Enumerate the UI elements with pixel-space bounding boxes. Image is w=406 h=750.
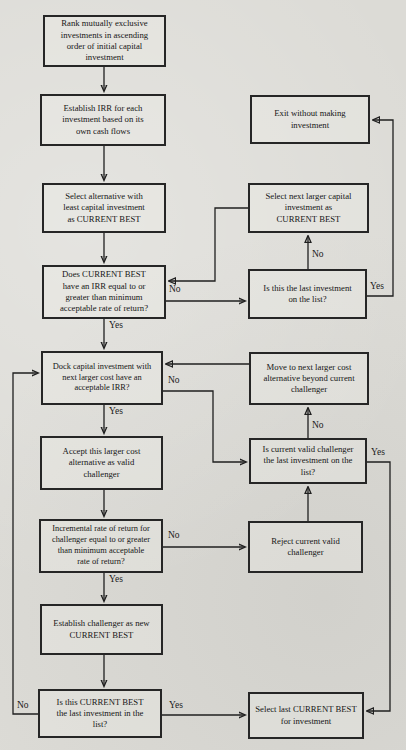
node-select-least-capital: Select alternative with least capital in… bbox=[42, 183, 166, 233]
label-iscblast-yes: Yes bbox=[169, 701, 183, 711]
label-does-no: No bbox=[169, 285, 181, 295]
node-establish-irr: Establish IRR for each investment based … bbox=[40, 94, 166, 146]
label-iscblast-no: No bbox=[17, 701, 29, 711]
node-does-current-best-irr: Does CURRENT BEST have an IRR equal to o… bbox=[42, 265, 166, 319]
edge-dock-no-to-ischallenger bbox=[163, 391, 246, 462]
node-exit-without-investment: Exit without making investment bbox=[250, 95, 370, 144]
node-rank-investments: Rank mutually exclusive investments in a… bbox=[43, 15, 166, 67]
node-incremental-rate-of-return: Incremental rate of return for challenge… bbox=[39, 519, 163, 573]
label-dock-yes: Yes bbox=[109, 407, 123, 417]
label-ischallenger-no: No bbox=[312, 421, 324, 431]
edge-selectnext-to-does bbox=[169, 208, 248, 281]
label-ischallenger-yes: Yes bbox=[371, 448, 385, 458]
node-move-next-larger-cost: Move to next larger cost alternative bey… bbox=[249, 352, 369, 405]
node-establish-challenger-new-best: Establish challenger as new CURRENT BEST bbox=[40, 604, 163, 655]
edge-islast-yes-to-exit bbox=[367, 120, 393, 296]
flowchart-page: Rank mutually exclusive investments in a… bbox=[0, 0, 406, 750]
label-dock-no: No bbox=[168, 376, 180, 386]
node-is-challenger-last: Is current valid challenger the last inv… bbox=[249, 438, 367, 484]
label-does-yes: Yes bbox=[109, 321, 123, 331]
node-accept-valid-challenger: Accept this larger cost alternative as v… bbox=[40, 436, 163, 490]
label-islast-no: No bbox=[312, 250, 324, 260]
node-select-next-larger-capital: Select next larger capital investment as… bbox=[248, 183, 369, 233]
label-incremental-no: No bbox=[168, 531, 180, 541]
node-next-larger-acceptable-irr: Dock capital investment with next larger… bbox=[41, 351, 163, 405]
label-incremental-yes: Yes bbox=[109, 575, 123, 585]
node-is-last-investment: Is this the last investment on the list? bbox=[248, 269, 367, 319]
node-is-current-best-last: Is this CURRENT BEST the last investment… bbox=[38, 689, 162, 738]
node-select-last-current-best: Select last CURRENT BEST for investment bbox=[248, 692, 364, 739]
edge-ischallenger-yes-to-selectlast bbox=[367, 462, 390, 711]
label-islast-yes: Yes bbox=[370, 282, 384, 292]
node-reject-challenger: Reject current valid challenger bbox=[248, 521, 363, 573]
edge-iscblast-no-to-dock bbox=[13, 373, 38, 714]
